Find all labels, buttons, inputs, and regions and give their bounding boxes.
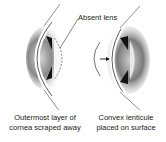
- right-caption-line1: Convex lenticule: [90, 113, 162, 123]
- absent-lens-label: Absent lens: [78, 13, 117, 22]
- right-caption: Convex lenticule placed on surface: [90, 113, 162, 133]
- left-caption: Outermost layer of cornea scraped away: [6, 113, 84, 133]
- left-caption-line1: Outermost layer of: [6, 113, 84, 123]
- left-caption-line2: cornea scraped away: [6, 123, 84, 133]
- right-caption-line2: placed on surface: [90, 123, 162, 133]
- left-eye-diagram: [26, 4, 78, 110]
